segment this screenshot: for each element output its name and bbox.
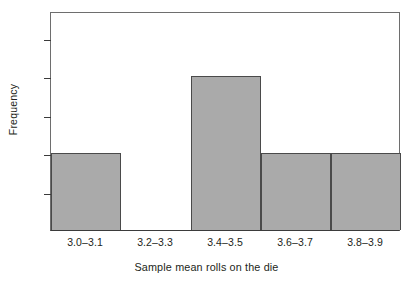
plot-frame [50,12,400,231]
y-axis-tick [44,78,51,79]
x-axis-title: Sample mean rolls on the die [0,261,413,274]
x-axis-tick-label: 3.4–3.5 [190,236,260,248]
x-axis-tick-label: 3.0–3.1 [50,236,120,248]
y-axis-tick [44,117,51,118]
y-axis-tick [44,194,51,195]
y-axis-tick [44,40,51,41]
histogram-bar [191,76,261,230]
x-axis-tick-label: 3.8–3.9 [330,236,400,248]
y-axis-tick [44,155,51,156]
histogram-bar [261,153,331,230]
histogram-figure: Frequency 0.51.01.52.02.5 3.0–3.13.2–3.3… [0,0,413,283]
plot-area [51,13,399,230]
y-axis-title: Frequency [5,0,21,219]
x-axis-tick-label: 3.2–3.3 [120,236,190,248]
histogram-bar [331,153,401,230]
x-axis-tick-label: 3.6–3.7 [260,236,330,248]
histogram-bar [51,153,121,230]
